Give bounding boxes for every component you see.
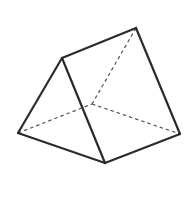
edge-AC [18,58,62,133]
hidden-edge-FE [92,104,180,134]
edge-DE [105,134,180,163]
edge-CD [18,133,105,163]
triangular-prism-diagram [0,0,191,199]
edge-BE [136,28,180,134]
hidden-edge-BF [92,28,136,104]
edge-AD [62,58,105,163]
hidden-edge-CF [18,104,92,133]
visible-edges [18,28,180,163]
edge-AB [62,28,136,58]
